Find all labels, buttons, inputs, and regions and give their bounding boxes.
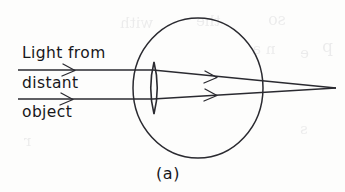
label-object: object xyxy=(22,105,72,121)
refracted-ray-lower xyxy=(153,88,336,99)
label-light-from: Light from xyxy=(22,46,106,62)
figure-eye-ray-diagram: with the so p n a e r s Light from dista… xyxy=(0,0,345,192)
figure-caption: (a) xyxy=(156,166,180,182)
refracted-ray-upper xyxy=(153,70,336,88)
label-distant: distant xyxy=(22,76,79,92)
arrowhead-refracted-upper-icon xyxy=(204,71,217,83)
eyeball-outline xyxy=(133,18,263,158)
